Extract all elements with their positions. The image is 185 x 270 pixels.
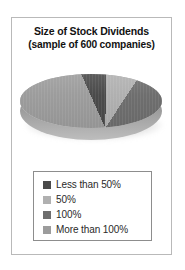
legend-item-100: 100% — [43, 207, 147, 222]
legend-swatch-icon — [43, 181, 51, 189]
pie-chart — [12, 62, 173, 162]
page-title: Size of Stock Dividends (sample of 600 c… — [12, 25, 171, 51]
legend-label: 100% — [56, 209, 81, 221]
legend-label: Less than 50% — [56, 179, 121, 191]
chart-legend: Less than 50% 50% 100% More than 100% — [33, 171, 152, 241]
pie-top-face — [20, 74, 162, 128]
legend-label: More than 100% — [56, 224, 128, 236]
legend-swatch-icon — [43, 211, 51, 219]
legend-label: 50% — [56, 194, 76, 206]
chart-title-line-2: (sample of 600 companies) — [12, 38, 171, 51]
legend-swatch-icon — [43, 226, 51, 234]
legend-item-50: 50% — [43, 192, 147, 207]
legend-item-more-than-100: More than 100% — [43, 222, 147, 237]
figure-frame: Size of Stock Dividends (sample of 600 c… — [11, 17, 172, 255]
legend-list: Less than 50% 50% 100% More than 100% — [43, 177, 147, 237]
chart-title-line-1: Size of Stock Dividends — [12, 25, 171, 38]
pie-slice-more-than-100 — [20, 74, 162, 128]
legend-item-less-than-50: Less than 50% — [43, 177, 147, 192]
legend-swatch-icon — [43, 196, 51, 204]
